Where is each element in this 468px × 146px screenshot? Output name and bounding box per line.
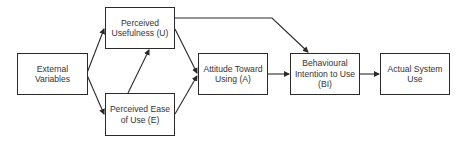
node-label-line: Perceived (121, 18, 159, 28)
node-label-line: Intention to Use (295, 69, 355, 79)
node-label-line: Using (A) (215, 74, 251, 84)
node-label-line: (BI) (318, 79, 332, 89)
node-label-line: Perceived Ease (110, 104, 170, 114)
arrow-ev-to-pu (87, 29, 104, 73)
node-label-line: Attitude Toward (203, 64, 262, 74)
node-perceived-ease-of-use: Perceived Easeof Use (E) (105, 93, 175, 136)
arrow-pu-to-bi (175, 18, 308, 52)
node-actual-system-use: Actual SystemUse (380, 53, 450, 95)
node-external-variables: ExternalVariables (17, 53, 88, 95)
node-attitude-toward-using: Attitude TowardUsing (A) (198, 53, 268, 95)
node-label-line: Actual System (388, 64, 443, 74)
arrow-ev-to-peou (87, 75, 104, 114)
node-label-line: Usefulness (U) (112, 28, 169, 38)
arrow-peou-to-att (175, 76, 197, 114)
arrow-pu-to-att (175, 29, 197, 73)
node-perceived-usefulness: PerceivedUsefulness (U) (105, 7, 175, 49)
node-behavioural-intention: BehaviouralIntention to Use(BI) (290, 53, 360, 95)
node-label-line: of Use (E) (121, 115, 160, 125)
node-label-line: Behavioural (302, 58, 347, 68)
arrow-peou-to-pu (128, 50, 149, 93)
node-label-line: Variables (35, 74, 70, 84)
node-label-line: External (37, 64, 69, 74)
node-label-line: Use (407, 74, 422, 84)
